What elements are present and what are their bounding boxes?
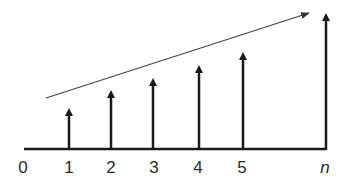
axis-label-1: 1 — [64, 158, 73, 178]
axis-label-0: 0 — [18, 158, 27, 178]
trend-arrow — [46, 13, 309, 98]
axis-label-2: 2 — [106, 158, 115, 178]
axis-label-3: 3 — [149, 158, 158, 178]
axis-label-4: 4 — [193, 158, 202, 178]
axis-label-n: n — [320, 158, 329, 178]
axis-label-5: 5 — [237, 158, 246, 178]
diagram-canvas — [0, 0, 345, 190]
